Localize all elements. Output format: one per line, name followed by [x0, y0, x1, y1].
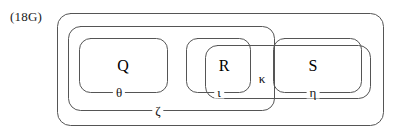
set-boundary-kappa: [206, 46, 371, 99]
set-label-iota: ι: [214, 86, 224, 99]
set-element-s: S: [309, 57, 318, 75]
set-label-kappa: κ: [256, 72, 269, 85]
figure-canvas: (18G) QRS ζθικη: [0, 0, 396, 137]
set-element-q: Q: [117, 57, 129, 75]
set-label-eta: η: [307, 86, 320, 99]
nested-set-diagram: [0, 0, 396, 137]
set-boundary-eta: [274, 39, 362, 93]
set-label-theta: θ: [113, 86, 125, 99]
set-label-zeta: ζ: [152, 104, 163, 117]
set-element-r: R: [219, 57, 230, 75]
